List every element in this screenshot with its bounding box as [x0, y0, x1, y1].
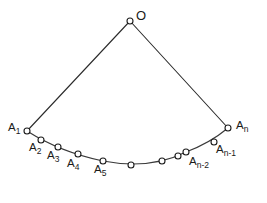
- vertex-label-a4: A4: [67, 158, 79, 172]
- right-radius-line: [130, 21, 228, 128]
- vertex-label-a1: A1: [8, 122, 20, 136]
- vertex-label-an: An: [236, 120, 248, 134]
- vertex-marker-an: [225, 125, 231, 131]
- vertex-label-a3-base: A: [47, 149, 55, 161]
- vertex-label-an-1: An-1: [216, 144, 236, 158]
- vertex-label-a2-base: A: [29, 141, 37, 153]
- vertex-label-an-2-base: A: [189, 155, 197, 167]
- vertex-label-a2-sub: 2: [37, 146, 42, 156]
- vertex-label-a1-sub: 1: [16, 126, 21, 136]
- vertex-label-a5: A5: [94, 164, 106, 178]
- vertex-label-an-2: An-2: [189, 156, 209, 170]
- vertex-label-an-sub: n: [244, 124, 249, 134]
- vertex-label-an-1-sub: n-1: [224, 148, 236, 158]
- vertex-marker-unlabeled-3: [175, 153, 181, 159]
- vertex-label-a5-sub: 5: [102, 168, 107, 178]
- vertex-label-an-2-sub: n-2: [197, 160, 209, 170]
- vertex-label-a3-sub: 3: [55, 154, 60, 164]
- radius-lines: [27, 21, 228, 131]
- vertex-marker-unlabeled-1: [128, 162, 134, 168]
- vertex-marker-unlabeled-2: [159, 158, 165, 164]
- vertex-label-a4-base: A: [67, 157, 75, 169]
- geometry-diagram: O A1 A2 A3 A4 A5 An-2 An-1 An: [0, 0, 267, 203]
- vertex-label-a4-sub: 4: [75, 162, 80, 172]
- vertex-label-an-1-base: A: [216, 143, 224, 155]
- left-radius-line: [27, 21, 130, 131]
- vertex-marker-a4: [75, 151, 81, 157]
- vertex-label-a3: A3: [47, 150, 59, 164]
- vertex-label-an-base: A: [236, 119, 244, 131]
- diagram-canvas: [0, 0, 267, 203]
- vertex-marker-a1: [24, 128, 30, 134]
- vertex-marker-o: [127, 18, 133, 24]
- vertex-label-a1-base: A: [8, 121, 16, 133]
- vertex-label-o: O: [136, 9, 146, 22]
- vertex-label-a5-base: A: [94, 163, 102, 175]
- vertex-label-a2: A2: [29, 142, 41, 156]
